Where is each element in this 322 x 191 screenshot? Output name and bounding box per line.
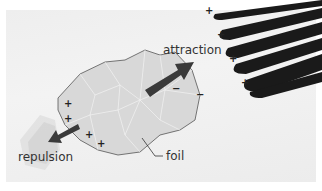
attraction-label: attraction <box>163 44 222 56</box>
comb-plus-sign: + <box>229 54 237 64</box>
comb <box>214 0 322 98</box>
comb-plus-sign: + <box>217 30 225 40</box>
foil-plus-sign: + <box>85 130 93 140</box>
foil-plus-sign: + <box>64 99 72 109</box>
comb-plus-sign: + <box>241 78 249 88</box>
diagram: + + + + + + + + + − − attraction repulsi… <box>0 0 322 191</box>
repulsion-label: repulsion <box>18 151 73 163</box>
foil-minus-sign: − <box>196 90 204 100</box>
foil-plus-sign: + <box>97 139 105 149</box>
foil-label: foil <box>166 150 184 162</box>
comb-plus-sign: + <box>205 6 213 16</box>
foil-plus-sign: + <box>64 114 72 124</box>
foil-minus-sign: − <box>172 84 180 94</box>
